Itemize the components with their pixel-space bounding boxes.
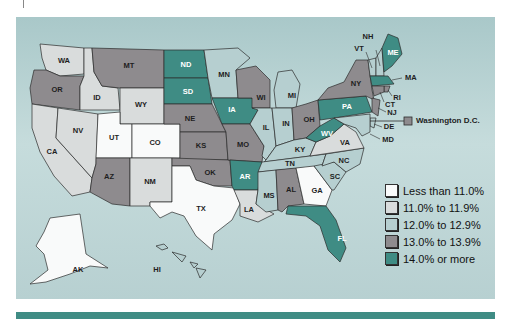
label-KY: KY [295, 145, 305, 154]
legend-item: Less than 11.0% [385, 182, 484, 199]
label-TX: TX [196, 204, 206, 213]
label-GA: GA [311, 186, 323, 195]
state-HI[interactable] [156, 244, 206, 278]
label-MN: MN [218, 70, 230, 79]
state-RI[interactable] [384, 86, 390, 92]
label-WY: WY [135, 100, 147, 109]
label-NV: NV [73, 126, 83, 135]
legend-swatch [385, 201, 398, 214]
label-ND: ND [181, 60, 192, 69]
legend-swatch [385, 252, 398, 265]
legend-label: 11.0% to 11.9% [403, 202, 479, 214]
legend-swatch [385, 184, 398, 197]
legend-label: 13.0% to 13.9% [403, 236, 481, 248]
label-CO: CO [149, 138, 160, 147]
label-TN: TN [285, 159, 295, 168]
state-CT[interactable] [372, 86, 384, 96]
label-NH: NH [363, 32, 374, 41]
label-VT: VT [354, 44, 364, 53]
label-IA: IA [228, 105, 236, 114]
label-MD: MD [382, 135, 394, 144]
label-WA: WA [58, 56, 71, 65]
label-WI: WI [256, 93, 265, 102]
state-NJ[interactable] [372, 98, 380, 116]
label-ME: ME [387, 48, 398, 57]
dc-label: Washington D.C. [416, 116, 480, 125]
label-HI: HI [153, 265, 161, 274]
label-MO: MO [237, 140, 249, 149]
legend-item: 11.0% to 11.9% [385, 199, 484, 216]
label-IL: IL [263, 123, 270, 132]
state-MA[interactable] [370, 76, 394, 86]
legend-label: 14.0% or more [403, 253, 475, 265]
label-KS: KS [196, 141, 206, 150]
label-WV: WV [321, 129, 333, 138]
label-MA: MA [405, 73, 417, 82]
legend-label: Less than 11.0% [403, 185, 484, 197]
legend-swatch [385, 235, 398, 248]
bottom-accent-bar [16, 312, 495, 319]
label-NC: NC [339, 156, 350, 165]
label-AK: AK [73, 265, 84, 274]
label-OH: OH [303, 115, 314, 124]
state-NY[interactable] [318, 60, 374, 100]
label-SC: SC [330, 172, 341, 181]
label-CA: CA [47, 147, 58, 156]
legend-item: 13.0% to 13.9% [385, 233, 484, 250]
label-MS: MS [263, 191, 274, 200]
label-MI: MI [288, 91, 296, 100]
label-NM: NM [144, 177, 156, 186]
state-MI[interactable] [274, 70, 300, 108]
dc-swatch[interactable] [404, 117, 412, 125]
label-AR: AR [240, 172, 251, 181]
us-map: Washington D.C. WA OR CA NV ID MT WY UT … [0, 0, 512, 319]
label-VA: VA [340, 138, 350, 147]
label-MT: MT [124, 61, 135, 70]
label-AZ: AZ [104, 172, 114, 181]
label-LA: LA [244, 205, 255, 214]
legend-item: 12.0% to 12.9% [385, 216, 484, 233]
label-IN: IN [282, 119, 290, 128]
label-SD: SD [183, 87, 194, 96]
state-AK[interactable] [30, 214, 108, 284]
legend-item: 14.0% or more [385, 250, 484, 267]
label-NJ: NJ [387, 108, 397, 117]
state-AZ[interactable] [90, 158, 130, 206]
label-ID: ID [93, 93, 101, 102]
state-DE[interactable] [370, 118, 376, 128]
label-UT: UT [109, 133, 119, 142]
label-NY: NY [351, 79, 361, 88]
label-DE: DE [384, 122, 394, 131]
legend: Less than 11.0% 11.0% to 11.9% 12.0% to … [385, 182, 484, 267]
legend-swatch [385, 218, 398, 231]
label-OR: OR [51, 85, 63, 94]
label-FL: FL [337, 234, 347, 243]
label-OK: OK [204, 168, 216, 177]
label-PA: PA [342, 102, 352, 111]
label-NE: NE [185, 114, 195, 123]
label-AL: AL [286, 185, 296, 194]
legend-label: 12.0% to 12.9% [403, 219, 481, 231]
